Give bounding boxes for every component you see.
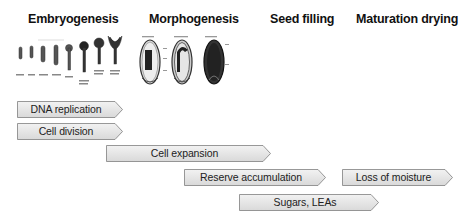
seed-cross-section-illustration xyxy=(136,34,232,90)
process-arrow-cell-division: Cell division xyxy=(17,123,123,140)
stage-title-morphogenesis: Morphogenesis xyxy=(149,12,239,26)
stage-title-embryogenesis: Embryogenesis xyxy=(28,12,119,26)
process-label-dna-replication: DNA replication xyxy=(17,101,115,118)
process-arrow-loss-of-moisture: Loss of moisture xyxy=(342,169,453,186)
stage-title-maturation-drying: Maturation drying xyxy=(356,12,458,26)
process-label-reserve-accumulation: Reserve accumulation xyxy=(184,169,318,186)
process-arrow-cell-expansion: Cell expansion xyxy=(106,145,271,162)
embryo-development-illustration xyxy=(12,34,124,88)
process-arrow-dna-replication: DNA replication xyxy=(17,101,123,118)
process-arrow-reserve-accumulation: Reserve accumulation xyxy=(184,169,326,186)
process-label-cell-expansion: Cell expansion xyxy=(106,145,263,162)
process-label-loss-of-moisture: Loss of moisture xyxy=(342,169,445,186)
stage-title-seed-filling: Seed filling xyxy=(270,12,334,26)
process-label-cell-division: Cell division xyxy=(17,123,115,140)
process-label-sugars-leas: Sugars, LEAs xyxy=(239,194,371,211)
process-arrow-sugars-leas: Sugars, LEAs xyxy=(239,194,379,211)
